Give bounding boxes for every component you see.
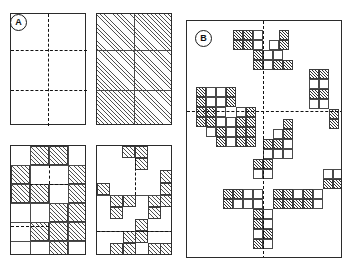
b-cell-empty: [226, 137, 236, 147]
a4-cell: [123, 243, 136, 255]
subpanel-a2-hatched-grid: [96, 13, 172, 125]
b-cell: [206, 107, 216, 117]
b-cell: [283, 129, 293, 139]
b-cell-empty: [283, 139, 293, 149]
b-cell: [226, 87, 236, 97]
b-cell-empty: [273, 149, 283, 159]
b-cell-empty: [206, 127, 216, 137]
b-cell: [253, 219, 263, 229]
b-cell: [196, 107, 206, 117]
a1-dashed-vertical: [48, 14, 49, 126]
b-cell: [319, 69, 329, 79]
b-cell-empty: [263, 169, 273, 179]
figure-root: A: [0, 0, 346, 266]
b-cell: [236, 137, 246, 147]
b-cell-empty: [263, 60, 273, 70]
a2-rule-horizontal-lower: [97, 90, 172, 91]
a4-cell: [110, 207, 123, 219]
a2-rule-vertical: [134, 14, 135, 125]
b-cell-empty: [216, 117, 226, 127]
b-cell-empty: [216, 87, 226, 97]
b-cell: [233, 189, 243, 199]
a3-cell: [30, 146, 49, 165]
a4-cell: [110, 195, 123, 207]
a3-dashed-horizontal-upper: [30, 184, 68, 185]
b-cell-empty: [309, 99, 319, 109]
b-cell-empty: [333, 169, 342, 179]
a4-cell: [135, 146, 148, 158]
b-cell: [246, 137, 256, 147]
a4-cell: [160, 170, 172, 183]
b-cell: [283, 189, 293, 199]
a4-cell: [135, 231, 148, 243]
b-cell: [246, 127, 256, 137]
b-cell-empty: [206, 97, 216, 107]
b-cell-empty: [263, 219, 273, 229]
b-cell: [323, 179, 333, 189]
b-cell-empty: [253, 30, 263, 40]
b-cell: [273, 199, 283, 209]
b-cell: [246, 117, 256, 127]
a3-cell: [30, 184, 49, 203]
panel-a-label: A: [10, 14, 27, 31]
a4-cell: [122, 146, 135, 158]
panel-b-label: B: [195, 30, 212, 47]
a4-cell: [160, 243, 172, 255]
a4-cell: [160, 195, 172, 207]
b-cell: [253, 60, 263, 70]
a3-cell: [68, 203, 86, 222]
b-cell: [216, 127, 226, 137]
b-dashed-horizontal: [187, 111, 342, 112]
b-cell-empty: [233, 199, 243, 209]
b-cell-empty: [293, 189, 303, 199]
b-cell: [223, 189, 233, 199]
b-cell: [309, 89, 319, 99]
b-cell-empty: [309, 79, 319, 89]
a3-dashed-vertical: [49, 165, 50, 184]
b-cell: [253, 159, 263, 169]
b-cell: [333, 179, 342, 189]
b-cell-empty: [319, 99, 329, 109]
b-cell: [233, 30, 243, 40]
b-cell-empty: [226, 127, 236, 137]
a3-cell: [68, 184, 86, 203]
b-cell: [273, 139, 283, 149]
b-cell-empty: [226, 117, 236, 127]
a2-rule-horizontal-upper: [97, 50, 172, 51]
a4-cell: [148, 207, 161, 219]
a3-dashed-horizontal-lower: [11, 226, 49, 227]
b-cell: [243, 40, 253, 50]
a4-cell: [123, 195, 136, 207]
b-cell-empty: [313, 199, 323, 209]
b-cell: [236, 117, 246, 127]
b-cell-empty: [313, 189, 323, 199]
b-cell-empty: [263, 149, 273, 159]
b-cell: [279, 40, 289, 50]
b-cell-empty: [263, 239, 273, 249]
b-cell: [223, 199, 233, 209]
b-cell-empty: [243, 199, 253, 209]
b-cell-empty: [263, 209, 273, 219]
a3-rule-v: [49, 184, 50, 255]
b-cell: [216, 137, 226, 147]
b-cell: [253, 50, 263, 60]
b-cell: [283, 60, 293, 70]
b-cell-empty: [236, 107, 246, 117]
a3-cell: [49, 146, 68, 165]
b-cell: [236, 127, 246, 137]
b-cell: [226, 97, 236, 107]
b-cell-empty: [269, 40, 279, 50]
b-cell: [309, 69, 319, 79]
b-cell: [329, 119, 339, 129]
b-cell: [263, 229, 273, 239]
b-cell: [263, 139, 273, 149]
a3-rule-v: [30, 146, 31, 255]
a4-cell: [135, 219, 148, 231]
a1-dashed-horizontal-lower: [11, 90, 87, 91]
b-cell: [263, 159, 273, 169]
b-cell: [196, 87, 206, 97]
b-cell-empty: [323, 169, 333, 179]
b-cell: [279, 30, 289, 40]
a4-dashed-horizontal: [97, 231, 172, 232]
a3-cell: [49, 241, 68, 255]
